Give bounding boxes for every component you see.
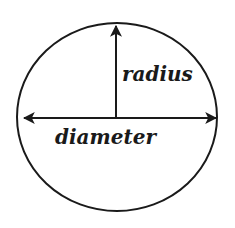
diameter-label: diameter: [55, 125, 157, 149]
radius-label: radius: [122, 62, 193, 86]
circle-diagram: radius diameter: [0, 0, 235, 228]
